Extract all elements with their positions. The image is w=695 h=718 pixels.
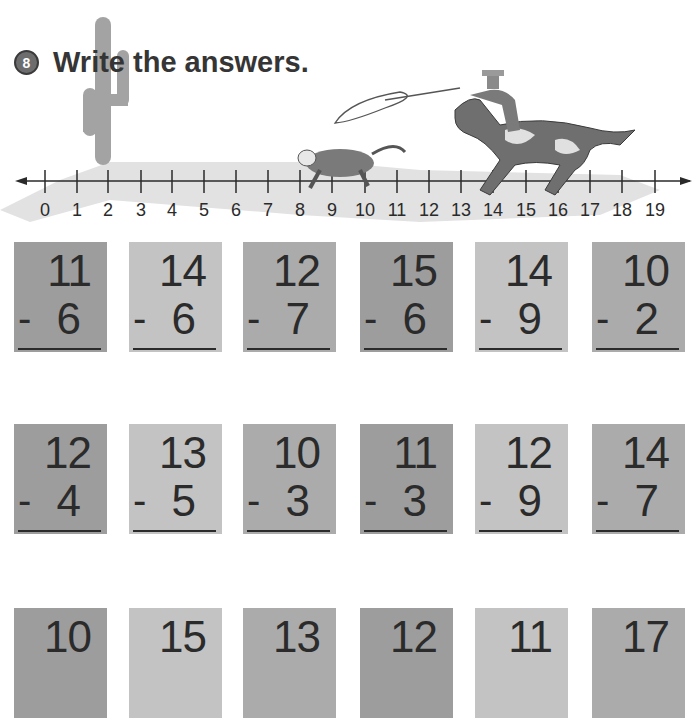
number-line-label: 4 <box>167 200 177 221</box>
answer-line <box>247 348 330 350</box>
number-line-label: 11 <box>388 200 407 221</box>
problem-card: 13 <box>243 608 336 718</box>
number-line-label: 17 <box>580 200 600 221</box>
problem-card: 10 <box>14 608 107 718</box>
number-line-labels: 0 1 2 3 4 5 6 7 8 9 10 11 12 13 14 15 16… <box>0 200 695 226</box>
problem-card: 13-5 <box>129 424 222 534</box>
answer-line <box>479 348 562 350</box>
exercise-header: 8 Write the answers. <box>14 46 309 79</box>
answer-line <box>18 348 101 350</box>
problem-card: 14-6 <box>129 242 222 352</box>
problem-card: 12-4 <box>14 424 107 534</box>
problem-card: 11-3 <box>360 424 453 534</box>
answer-line <box>18 530 101 532</box>
problem-card: 11 <box>475 608 568 718</box>
problem-card: 10-3 <box>243 424 336 534</box>
number-line-label: 9 <box>327 200 337 221</box>
cactus-icon <box>83 17 129 165</box>
number-line-label: 1 <box>72 200 82 221</box>
answer-line <box>247 530 330 532</box>
answer-line <box>133 530 216 532</box>
answer-line <box>479 530 562 532</box>
problem-card: 15-6 <box>360 242 453 352</box>
number-line-label: 19 <box>645 200 665 221</box>
lasso-icon <box>335 88 460 123</box>
answer-line <box>596 348 679 350</box>
number-line-label: 12 <box>419 200 439 221</box>
problem-card: 14-7 <box>592 424 685 534</box>
answer-line <box>596 530 679 532</box>
exercise-title: Write the answers. <box>53 46 309 79</box>
problem-card: 12 <box>360 608 453 718</box>
answer-line <box>133 348 216 350</box>
number-line-label: 8 <box>295 200 305 221</box>
answer-line <box>364 348 447 350</box>
number-line-label: 16 <box>548 200 568 221</box>
number-line-label: 3 <box>136 200 146 221</box>
problem-card: 14-9 <box>475 242 568 352</box>
problem-card: 12-7 <box>243 242 336 352</box>
exercise-number-badge: 8 <box>14 50 39 75</box>
number-line-label: 14 <box>483 200 503 221</box>
problem-card: 10-2 <box>592 242 685 352</box>
number-line-label: 13 <box>451 200 471 221</box>
number-line-label: 5 <box>199 200 209 221</box>
answer-line <box>364 530 447 532</box>
number-line-label: 18 <box>612 200 632 221</box>
problem-card: 17 <box>592 608 685 718</box>
cowboy-illustration <box>0 0 695 230</box>
number-line-label: 0 <box>40 200 50 221</box>
problem-card: 12-9 <box>475 424 568 534</box>
number-line-label: 15 <box>516 200 536 221</box>
number-line-label: 7 <box>263 200 273 221</box>
problem-card: 11-6 <box>14 242 107 352</box>
number-line-label: 2 <box>103 200 113 221</box>
problem-card: 15 <box>129 608 222 718</box>
number-line-label: 6 <box>231 200 241 221</box>
number-line-label: 10 <box>355 200 375 221</box>
